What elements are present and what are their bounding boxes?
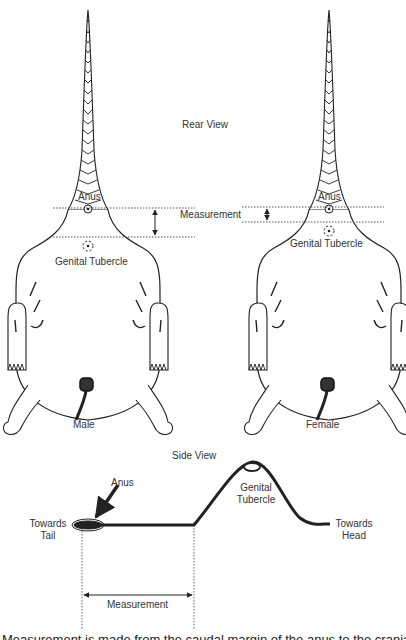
towards-tail-label: Towards Tail — [26, 518, 70, 541]
anus-pointer-arrow — [96, 485, 118, 517]
towards-head-label: Towards Head — [332, 518, 376, 541]
measurement-label: Measurement — [180, 209, 241, 221]
female-anus-label: Anus — [318, 191, 341, 203]
genital-label-line1: Genital — [234, 482, 278, 494]
side-profile-line — [78, 462, 330, 525]
female-label: Female — [306, 419, 339, 431]
side-genital-tubercle — [244, 463, 260, 471]
male-anus-label: Anus — [78, 191, 101, 203]
male-genital-tubercle-label: Genital Tubercle — [55, 256, 128, 268]
side-genital-tubercle-label: Genital Tubercle — [234, 482, 278, 505]
male-label: Male — [73, 419, 95, 431]
rear-view-title: Rear View — [182, 119, 228, 131]
side-anus — [74, 521, 102, 529]
towards-tail-line1: Towards — [26, 518, 70, 530]
side-measurement-label: Measurement — [107, 599, 168, 611]
towards-head-line1: Towards — [332, 518, 376, 530]
female-rear-view-figure — [245, 10, 406, 435]
genital-label-line2: Tubercle — [234, 494, 278, 506]
towards-head-line2: Head — [332, 530, 376, 542]
diagram-canvas — [0, 0, 406, 640]
towards-tail-line2: Tail — [26, 530, 70, 542]
male-rear-view-figure — [4, 10, 173, 435]
side-view-title: Side View — [172, 450, 216, 462]
figure-caption: Measurement is made from the caudal marg… — [2, 632, 406, 640]
side-anus-label: Anus — [111, 477, 134, 489]
female-genital-tubercle-label: Genital Tubercle — [290, 238, 363, 250]
